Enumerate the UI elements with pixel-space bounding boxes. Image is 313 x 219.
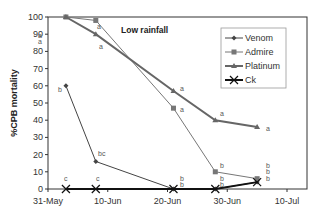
y-tick-label: 100	[28, 12, 43, 22]
x-tick-label: 20-Jun	[154, 196, 182, 206]
significance-letter: b	[266, 175, 270, 182]
significance-letter: a	[220, 110, 224, 117]
square-marker-icon	[232, 50, 237, 55]
x-tick-label: 31-May	[33, 196, 64, 206]
chart-title: Low rainfall	[121, 25, 168, 35]
significance-letter: a	[38, 38, 42, 45]
x-axis: 31-May10-Jun20-Jun30-Jun10-Jul	[33, 189, 299, 206]
legend: VenomAdmirePlatinumCk	[221, 28, 286, 88]
y-tick-label: 20	[33, 150, 43, 160]
series-venom	[63, 83, 259, 191]
line-chart: 0102030405060708090100 31-May10-Jun20-Ju…	[0, 0, 313, 219]
square-marker-icon	[213, 169, 218, 174]
square-marker-icon	[171, 106, 176, 111]
significance-letter: a	[266, 125, 270, 132]
significance-letter: c	[64, 175, 68, 182]
y-tick-label: 30	[33, 132, 43, 142]
significance-letter: bc	[98, 150, 106, 157]
series-ck	[62, 178, 261, 193]
significance-letter: b	[220, 181, 224, 188]
significance-letter: b	[180, 181, 184, 188]
y-tick-label: 40	[33, 115, 43, 125]
significance-letter: c	[96, 175, 100, 182]
significance-letter: b	[58, 86, 62, 93]
significance-letter: b	[220, 162, 224, 169]
significance-letter: a	[99, 43, 103, 50]
legend-label: Ck	[245, 75, 256, 85]
significance-letter: b	[266, 168, 270, 175]
significance-letter: a	[97, 23, 101, 30]
y-axis-label: %CPB mortality	[9, 69, 19, 137]
legend-label: Admire	[245, 47, 274, 57]
x-tick-label: 10-Jun	[94, 196, 122, 206]
significance-letter: a	[180, 85, 184, 92]
legend-label: Venom	[245, 33, 273, 43]
y-tick-label: 0	[38, 184, 43, 194]
y-tick-label: 50	[33, 98, 43, 108]
y-tick-label: 60	[33, 81, 43, 91]
x-tick-label: 10-Jul	[275, 196, 300, 206]
y-tick-label: 70	[33, 64, 43, 74]
legend-label: Platinum	[245, 61, 280, 71]
diamond-marker-icon	[63, 83, 68, 88]
x-tick-label: 30-Jun	[213, 196, 241, 206]
significance-letter: a	[180, 106, 184, 113]
y-tick-label: 80	[33, 46, 43, 56]
y-tick-label: 10	[33, 167, 43, 177]
diamond-marker-icon	[93, 159, 98, 164]
